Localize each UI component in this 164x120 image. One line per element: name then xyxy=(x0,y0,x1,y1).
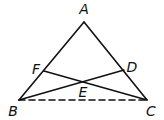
segment-ac xyxy=(84,22,147,100)
label-d: D xyxy=(127,59,138,75)
segment-ab xyxy=(19,22,84,100)
segment-cf xyxy=(44,71,147,100)
label-e: E xyxy=(79,84,88,100)
label-b: B xyxy=(8,103,18,119)
point-labels: ABCDEF xyxy=(8,1,156,119)
label-c: C xyxy=(146,103,156,119)
label-a: A xyxy=(78,1,89,17)
label-f: F xyxy=(32,61,41,77)
triangle-diagram: ABCDEF xyxy=(0,0,164,120)
